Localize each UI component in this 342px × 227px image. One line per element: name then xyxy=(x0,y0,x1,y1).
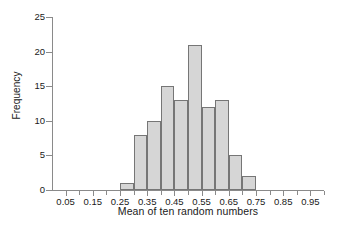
histogram-bar xyxy=(229,155,243,190)
x-minor-tick-mark xyxy=(324,191,325,195)
histogram-bar xyxy=(161,86,175,190)
y-axis-label: Frequency xyxy=(8,0,24,190)
histogram-bar xyxy=(147,121,161,190)
y-tick-mark xyxy=(46,190,52,191)
histogram-bar xyxy=(242,176,256,190)
y-tick-mark xyxy=(46,155,52,156)
histogram-bar xyxy=(134,135,148,190)
x-minor-tick-mark xyxy=(270,191,271,195)
histogram-bar xyxy=(188,45,202,190)
y-tick-mark xyxy=(46,121,52,122)
plot-area: 0510152025 0.050.150.250.350.450.550.650… xyxy=(0,0,342,227)
histogram-bar xyxy=(120,183,134,190)
histogram-bar xyxy=(174,100,188,190)
x-minor-tick-mark xyxy=(242,191,243,195)
x-minor-tick-mark xyxy=(188,191,189,195)
x-minor-tick-mark xyxy=(79,191,80,195)
x-minor-tick-mark xyxy=(134,191,135,195)
x-minor-tick-mark xyxy=(297,191,298,195)
histogram-bar xyxy=(215,100,229,190)
y-axis-spine xyxy=(52,17,53,191)
histogram-chart: 0510152025 0.050.150.250.350.450.550.650… xyxy=(0,0,342,227)
y-tick-mark xyxy=(46,17,52,18)
y-tick-mark xyxy=(46,86,52,87)
y-axis-label-text: Frequency xyxy=(11,71,22,119)
y-tick-mark xyxy=(46,52,52,53)
x-minor-tick-mark xyxy=(106,191,107,195)
x-minor-tick-mark xyxy=(215,191,216,195)
histogram-bar xyxy=(202,107,216,190)
x-axis-label: Mean of ten random numbers xyxy=(52,205,324,217)
x-minor-tick-mark xyxy=(161,191,162,195)
